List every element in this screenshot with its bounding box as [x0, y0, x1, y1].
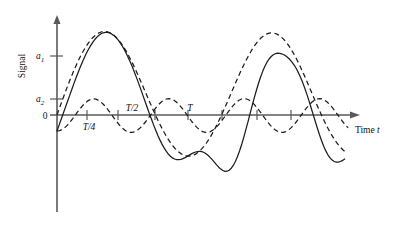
x-axis-arrow-icon: [350, 111, 360, 118]
curve-fundamental: [57, 32, 345, 157]
y-axis-title: Signal: [17, 54, 27, 79]
y-tick-label-a1: a1: [36, 51, 44, 64]
x-tick-label-t: T: [187, 103, 193, 113]
y-tick-label-a2: a2: [36, 94, 45, 107]
y-axis: [50, 15, 63, 212]
y-tick-label-zero: 0: [43, 111, 48, 121]
signal-harmonics-figure: Signal a1 a2 0 T/4 T/2 T Time t: [0, 0, 400, 231]
y-axis-arrow-icon: [53, 15, 60, 24]
x-tick-label-t4: T/4: [83, 122, 96, 132]
x-axis-title: Time t: [355, 125, 380, 135]
chart-svg: Signal a1 a2 0 T/4 T/2 T Time t: [0, 0, 400, 231]
x-tick-label-t2: T/2: [126, 103, 139, 113]
curve-sum: [57, 32, 345, 171]
